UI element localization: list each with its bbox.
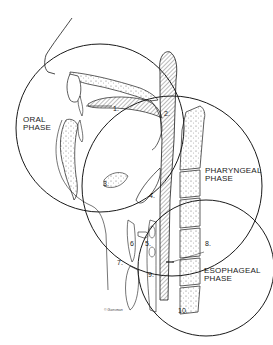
marker-8: 8. [205, 240, 211, 247]
marker-5: 5. [145, 240, 151, 247]
esophageal-phase-label: ESOPHAGEAL PHASE [204, 267, 261, 283]
artist-signature: © Gansman [104, 309, 123, 313]
oral-phase-label: ORAL PHASE [23, 116, 51, 132]
pharyngeal-phase-label: PHARYNGEAL PHASE [205, 167, 262, 183]
marker-4: 4. [149, 192, 155, 199]
hard-palate [70, 72, 158, 101]
marker-6: 6 [130, 240, 134, 247]
marker-3: 3. [103, 180, 109, 187]
marker-2: 2. [164, 110, 170, 117]
marker-1: 1. [113, 105, 119, 112]
marker-10: 10. [178, 307, 188, 314]
mandible [60, 119, 78, 200]
marker-7: 7. [117, 259, 123, 266]
face-profile [45, 18, 72, 74]
marker-9: 9. [148, 271, 154, 278]
